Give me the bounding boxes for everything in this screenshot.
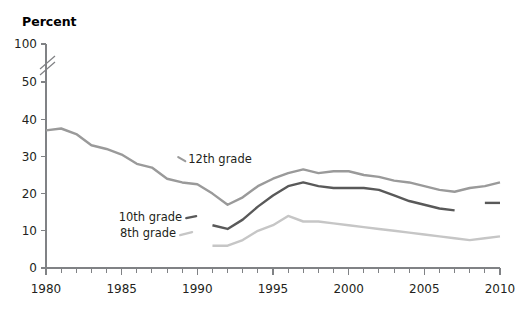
x-tick-label: 1990 xyxy=(182,282,213,296)
chart-container: Percent 01020304050100 19801985199019952… xyxy=(0,0,515,312)
y-axis-title: Percent xyxy=(22,14,77,29)
x-tick-label: 1995 xyxy=(258,282,289,296)
x-tick-label: 1985 xyxy=(106,282,137,296)
y-tick-label: 20 xyxy=(22,187,37,201)
y-tick-label: 0 xyxy=(29,261,37,275)
y-tick-label: 30 xyxy=(22,150,37,164)
series-label-8th-grade: 8th grade xyxy=(120,226,176,240)
x-tick-label: 2010 xyxy=(485,282,515,296)
series-label-12th-grade: 12th grade xyxy=(188,152,252,166)
series-label-10th-grade: 10th grade xyxy=(119,210,183,224)
y-tick-label: 40 xyxy=(22,113,37,127)
x-tick-label: 2000 xyxy=(333,282,364,296)
y-tick-label: 50 xyxy=(22,75,37,89)
y-tick-label: 10 xyxy=(22,224,37,238)
line-chart: Percent 01020304050100 19801985199019952… xyxy=(0,0,515,312)
chart-background xyxy=(0,0,515,312)
x-tick-label: 1980 xyxy=(31,282,62,296)
x-tick-label: 2005 xyxy=(409,282,440,296)
y-tick-label: 100 xyxy=(14,37,37,51)
